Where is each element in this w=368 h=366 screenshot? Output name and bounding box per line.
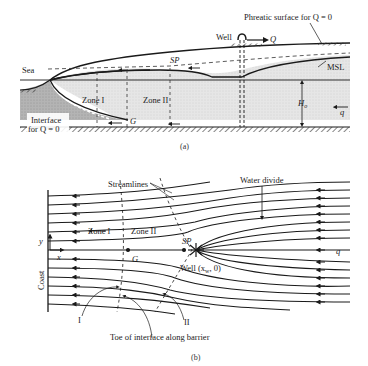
label-well-b: Well (xw, 0) [180,263,221,274]
label-phreatic: Phreatic surface for Q = 0 [244,12,332,22]
label-zone1-b: Zone I [88,226,111,236]
label-water-divide: Water divide [240,175,284,185]
label-y: y [38,236,43,246]
caption-a: (a) [180,142,189,151]
caption-b: (b) [191,353,201,362]
label-msl: MSL [327,62,344,72]
fresh-water-zone [50,55,350,120]
label-x: x [56,252,61,262]
label-zone2-b: Zone II [131,226,156,236]
label-sp-a: SP [170,55,179,65]
plan-view-b [48,178,350,338]
label-G-a: G [130,116,136,126]
label-zone1-a: Zone I [82,95,105,105]
label-q-b: q [336,246,341,256]
label-Q: Q [270,34,276,44]
label-G-b: G [132,254,138,264]
label-II: II [184,317,190,327]
label-toe: Toe of interface along barrier [110,332,210,342]
label-sp-b: SP [182,236,191,246]
label-streamlines: Streamlines [108,179,148,189]
label-zone2-a: Zone II [143,95,168,105]
label-sea: Sea [22,65,35,75]
label-coast: Coast [36,270,46,290]
label-well: Well [216,32,232,42]
cross-section-a: Sea Well Q Phreatic surface for Q = 0 SP… [20,12,350,151]
label-interface-2: for Q = 0 [28,124,59,134]
coastal-aquifer-figure: Sea Well Q Phreatic surface for Q = 0 SP… [0,0,368,366]
label-I: I [78,315,81,325]
